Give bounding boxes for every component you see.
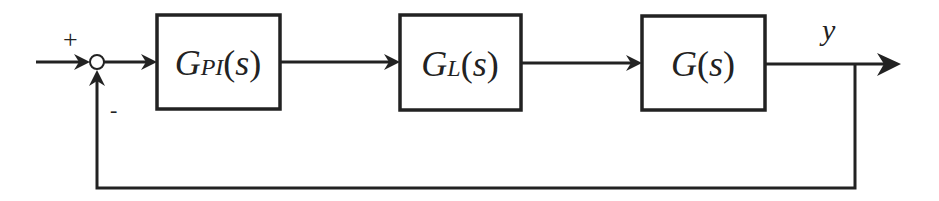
plus-sign: + (63, 25, 78, 54)
plant-label: G(s) (671, 44, 735, 84)
block-diagram: + - GPI(s) GL(s) G(s) y (0, 0, 939, 201)
link-label: GL(s) (421, 44, 498, 84)
output-label: y (819, 13, 836, 46)
summing-junction (90, 55, 104, 69)
minus-sign: - (110, 97, 117, 122)
